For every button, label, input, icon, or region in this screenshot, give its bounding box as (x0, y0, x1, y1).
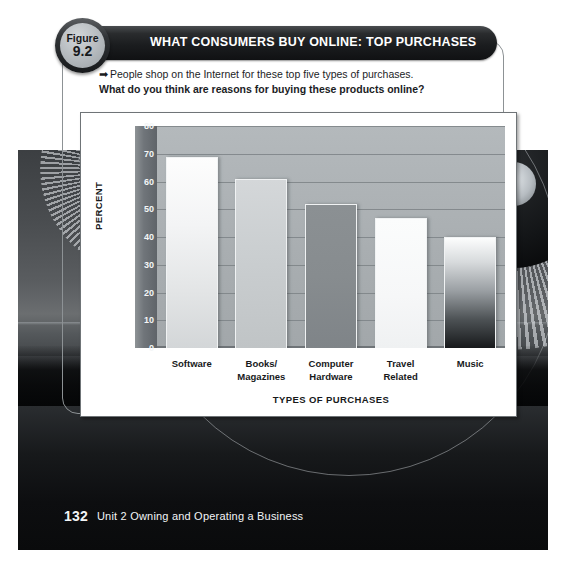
x-tick-label-line: Books/ (227, 357, 297, 370)
bar (375, 218, 427, 348)
y-tick-label: 10 (144, 315, 154, 325)
y-tick-label: 20 (144, 288, 154, 298)
bar (166, 157, 218, 348)
arrow-right-icon: ➡ (99, 67, 108, 82)
x-tick-label-line: Music (435, 357, 505, 370)
textbook-page: 132Unit 2 Owning and Operating a Busines… (0, 0, 570, 574)
x-tick-label-line: Hardware (296, 370, 366, 383)
caption-line-1: People shop on the Internet for these to… (110, 68, 414, 80)
chart-panel: PERCENT 01020304050607080 SoftwareBooks/… (80, 112, 517, 417)
x-tick-label: TravelRelated (366, 357, 436, 383)
bar (305, 204, 357, 348)
x-tick-label: Books/Magazines (227, 357, 297, 383)
x-tick-label-line: Travel (366, 357, 436, 370)
x-axis-title: TYPES OF PURCHASES (157, 394, 505, 405)
figure-title-bar: WHAT CONSUMERS BUY ONLINE: TOP PURCHASES (85, 26, 497, 60)
figure-caption: ➡People shop on the Internet for these t… (99, 67, 489, 96)
y-tick-label: 60 (144, 177, 154, 187)
bar (444, 237, 496, 348)
caption-line-2: What do you think are reasons for buying… (99, 82, 489, 97)
x-tick-label-line: Software (157, 357, 227, 370)
gridline (157, 126, 505, 127)
bar (235, 179, 287, 348)
figure-number-badge: Figure 9.2 (55, 18, 110, 73)
x-tick-label-line: Related (366, 370, 436, 383)
y-tick-label: 50 (144, 204, 154, 214)
unit-label: Unit 2 Owning and Operating a Business (97, 510, 303, 522)
plot-area (157, 126, 505, 348)
y-tick-label: 80 (144, 121, 154, 131)
figure-number-badge-inner: Figure 9.2 (60, 23, 105, 68)
figure-card: WHAT CONSUMERS BUY ONLINE: TOP PURCHASES… (55, 18, 515, 433)
y-axis: 01020304050607080 (135, 126, 157, 348)
page-number: 132 (64, 508, 88, 524)
x-tick-label-line: Magazines (227, 370, 297, 383)
x-tick-label: ComputerHardware (296, 357, 366, 383)
y-tick-label: 70 (144, 149, 154, 159)
y-tick-label: 30 (144, 260, 154, 270)
x-axis-tick-labels: SoftwareBooks/MagazinesComputerHardwareT… (157, 357, 505, 391)
page-footer: 132Unit 2 Owning and Operating a Busines… (64, 508, 303, 524)
y-tick-label: 0 (149, 343, 154, 353)
x-tick-label: Music (435, 357, 505, 370)
figure-badge-number: 9.2 (73, 44, 92, 59)
x-tick-label-line: Computer (296, 357, 366, 370)
gridline (157, 154, 505, 155)
figure-title: WHAT CONSUMERS BUY ONLINE: TOP PURCHASES (150, 35, 476, 49)
y-axis-title: PERCENT (93, 182, 104, 230)
x-tick-label: Software (157, 357, 227, 370)
plot-wrapper: PERCENT 01020304050607080 (109, 126, 505, 354)
y-tick-label: 40 (144, 232, 154, 242)
